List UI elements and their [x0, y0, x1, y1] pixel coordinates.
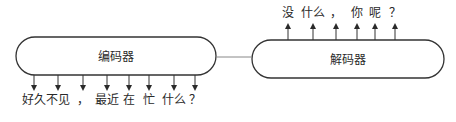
encoder-label: 编码器 [98, 49, 134, 64]
output-token: 呢 [369, 6, 381, 20]
input-token: 忙 [143, 93, 155, 107]
input-token: 好久 [22, 93, 46, 107]
output-token: 没 [282, 5, 294, 20]
input-token: ， [77, 93, 89, 107]
input-tokens: 好久不见，最近在忙什么？ [22, 93, 201, 107]
input-token: 不见 [46, 93, 70, 107]
output-token: ？ [389, 6, 401, 20]
input-token: 在 [123, 93, 135, 107]
decoder-label: 解码器 [330, 53, 366, 67]
output-arrows [288, 26, 395, 40]
encoder-decoder-diagram: 编码器 解码器 好久不见，最近在忙什么？ 没什么，你呢？ [0, 0, 456, 122]
input-token: 什么 [162, 93, 186, 107]
output-tokens: 没什么，你呢？ [282, 5, 401, 20]
output-token: ， [330, 6, 342, 20]
input-arrows [34, 75, 195, 88]
input-token: ？ [189, 93, 201, 107]
output-token: 什么 [301, 6, 325, 20]
output-token: 你 [351, 6, 363, 20]
input-token: 最近 [95, 93, 119, 107]
